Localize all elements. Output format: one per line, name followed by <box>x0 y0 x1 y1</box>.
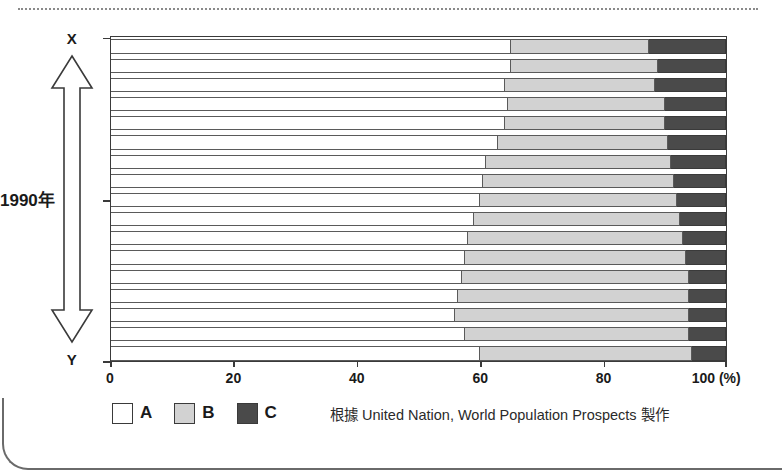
x-axis-tick-mark <box>233 362 235 367</box>
bar-segment-b <box>508 97 665 111</box>
bar-segment-a <box>111 289 458 303</box>
bar-row <box>111 116 726 130</box>
bar-row <box>111 231 726 245</box>
bar-segment-c <box>649 39 726 53</box>
x-axis-tick-mark <box>357 362 359 367</box>
bar-row <box>111 308 726 322</box>
y-axis-tick <box>103 38 111 40</box>
bar-segment-a <box>111 327 465 341</box>
bar-segment-a <box>111 231 468 245</box>
bar-segment-a <box>111 97 508 111</box>
bar-segment-b <box>474 212 680 226</box>
bar-row <box>111 78 726 92</box>
bar-segment-c <box>689 270 726 284</box>
bar-segment-a <box>111 59 511 73</box>
bar-segment-b <box>458 289 689 303</box>
legend-swatch-c <box>237 403 258 424</box>
x-axis-tick-label: 0 <box>106 370 114 386</box>
bar-segment-a <box>111 78 505 92</box>
bar-segment-b <box>455 308 689 322</box>
x-axis-tick-mark <box>480 362 482 367</box>
bar-segment-a <box>111 212 474 226</box>
bar-segment-b <box>511 59 659 73</box>
x-axis-tick-label: 60 <box>472 370 488 386</box>
bar-segment-b <box>483 174 674 188</box>
plot-area <box>110 36 727 362</box>
bar-segment-a <box>111 135 498 149</box>
bar-row <box>111 39 726 53</box>
bar-segment-c <box>683 231 726 245</box>
x-axis-tick-mark <box>725 362 727 367</box>
legend-item-b[interactable]: B <box>174 403 214 424</box>
bar-segment-c <box>665 116 727 130</box>
bar-series-container <box>111 37 726 361</box>
bar-segment-b <box>480 193 677 207</box>
legend-item-c[interactable]: C <box>237 403 277 424</box>
legend-label-c: C <box>265 403 277 423</box>
bar-segment-c <box>689 327 726 341</box>
bar-segment-c <box>671 155 726 169</box>
x-axis-tick-label: 100 (%) <box>692 370 741 386</box>
x-axis-tick-label: 40 <box>349 370 365 386</box>
bar-segment-a <box>111 250 465 264</box>
bar-row <box>111 193 726 207</box>
bar-row <box>111 212 726 226</box>
y-axis-tick <box>103 200 111 202</box>
bar-segment-c <box>692 346 726 360</box>
bar-segment-b <box>505 116 665 130</box>
bar-segment-b <box>505 78 656 92</box>
bar-segment-c <box>689 289 726 303</box>
source-note: 根據 United Nation, World Population Prosp… <box>330 403 669 424</box>
bar-segment-b <box>511 39 649 53</box>
legend: ABC <box>112 398 277 428</box>
legend-swatch-b <box>174 403 195 424</box>
bar-segment-b <box>480 346 692 360</box>
bar-segment-a <box>111 155 486 169</box>
bar-row <box>111 97 726 111</box>
x-axis: 020406080100 (%) <box>110 366 727 390</box>
bar-row <box>111 346 726 360</box>
bar-segment-c <box>668 135 726 149</box>
x-axis-tick-mark <box>110 362 112 367</box>
bar-segment-b <box>465 250 686 264</box>
x-axis-tick-mark <box>604 362 606 367</box>
bar-segment-c <box>680 212 726 226</box>
bar-segment-c <box>689 308 726 322</box>
legend-swatch-a <box>112 403 133 424</box>
bar-segment-c <box>677 193 726 207</box>
bar-segment-a <box>111 270 462 284</box>
bar-row <box>111 59 726 73</box>
bar-segment-a <box>111 116 505 130</box>
bar-row <box>111 327 726 341</box>
legend-label-b: B <box>202 403 214 423</box>
bar-segment-c <box>665 97 727 111</box>
bar-segment-a <box>111 193 480 207</box>
bar-row <box>111 174 726 188</box>
bar-segment-a <box>111 174 483 188</box>
legend-item-a[interactable]: A <box>112 403 152 424</box>
x-axis-tick-label: 80 <box>596 370 612 386</box>
bar-segment-b <box>462 270 690 284</box>
bar-segment-b <box>465 327 689 341</box>
x-axis-tick-label: 20 <box>226 370 242 386</box>
bar-row <box>111 270 726 284</box>
bar-segment-c <box>686 250 726 264</box>
bar-segment-b <box>468 231 683 245</box>
bar-segment-c <box>674 174 726 188</box>
bar-segment-a <box>111 346 480 360</box>
bar-segment-c <box>658 59 726 73</box>
bar-row <box>111 135 726 149</box>
year-label-1990: 1990年 <box>0 186 92 211</box>
bar-segment-b <box>486 155 671 169</box>
bar-segment-c <box>655 78 726 92</box>
bar-segment-a <box>111 308 455 322</box>
bar-row <box>111 289 726 303</box>
bar-segment-a <box>111 39 511 53</box>
bar-row <box>111 250 726 264</box>
bar-row <box>111 155 726 169</box>
legend-label-a: A <box>140 403 152 423</box>
bar-segment-b <box>498 135 667 149</box>
